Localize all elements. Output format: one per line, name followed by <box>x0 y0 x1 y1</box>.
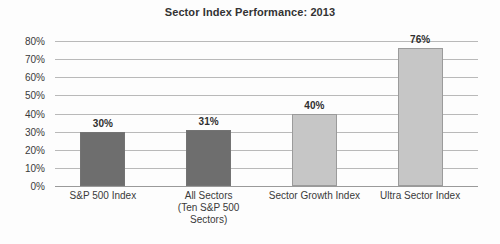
y-axis: 0%10%20%30%40%50%60%70%80% <box>0 41 51 186</box>
y-tick-label: 50% <box>25 90 45 101</box>
y-tick-label: 0% <box>31 181 45 192</box>
bar[interactable]: 30% <box>80 41 125 186</box>
bar-rect <box>398 48 443 186</box>
bar-value-label: 40% <box>304 100 324 111</box>
bar-rect <box>186 130 231 186</box>
x-category-line: Sectors) <box>156 214 262 226</box>
bar-value-label: 30% <box>93 118 113 129</box>
bar-chart: Sector Index Performance: 2013 0%10%20%3… <box>0 0 500 244</box>
x-category-label: S&P 500 Index <box>50 190 156 202</box>
y-tick-label: 70% <box>25 54 45 65</box>
x-category-line: (Ten S&P 500 <box>156 202 262 214</box>
bar-rect <box>80 132 125 186</box>
y-tick-label: 10% <box>25 162 45 173</box>
x-category-line: Ultra Sector Index <box>367 190 473 202</box>
y-tick-label: 60% <box>25 72 45 83</box>
bar-value-label: 76% <box>410 34 430 45</box>
x-category-label: All Sectors(Ten S&P 500Sectors) <box>156 190 262 226</box>
bar[interactable]: 76% <box>398 41 443 186</box>
bar-rect <box>292 114 337 187</box>
y-tick-label: 40% <box>25 108 45 119</box>
y-tick-label: 30% <box>25 126 45 137</box>
chart-title: Sector Index Performance: 2013 <box>0 6 500 18</box>
bar[interactable]: 31% <box>186 41 231 186</box>
x-category-label: Sector Growth Index <box>262 190 368 202</box>
bar-value-label: 31% <box>199 116 219 127</box>
x-category-label: Ultra Sector Index <box>367 190 473 202</box>
bar[interactable]: 40% <box>292 41 337 186</box>
y-tick-label: 20% <box>25 144 45 155</box>
x-category-line: All Sectors <box>156 190 262 202</box>
x-axis: S&P 500 IndexAll Sectors(Ten S&P 500Sect… <box>55 190 478 242</box>
axis-baseline <box>55 186 478 187</box>
bars-layer: 30%31%40%76% <box>55 41 478 186</box>
x-category-line: Sector Growth Index <box>262 190 368 202</box>
y-tick-label: 80% <box>25 36 45 47</box>
x-category-line: S&P 500 Index <box>50 190 156 202</box>
